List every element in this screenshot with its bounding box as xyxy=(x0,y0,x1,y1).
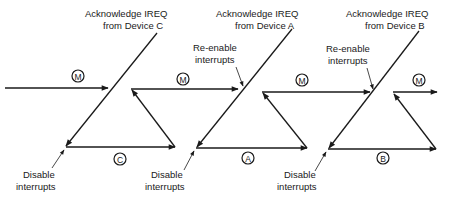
disable-label-a-line1: Disable xyxy=(151,169,183,180)
reenable-label-a-line1: Re-enable xyxy=(193,42,237,53)
acknowledge-label-b-line1: Acknowledge IREQ xyxy=(346,8,428,19)
svg-text:C: C xyxy=(117,155,123,165)
acknowledge-label-a-line1: Acknowledge IREQ xyxy=(216,8,298,19)
svg-text:B: B xyxy=(380,154,386,164)
marker-c: C xyxy=(114,153,126,165)
acknowledge-label-b-line2: from Device B xyxy=(365,20,425,31)
disable-label-b-line2: interrupts xyxy=(277,181,317,192)
marker-m-3: M xyxy=(296,74,308,86)
svg-text:M: M xyxy=(179,75,186,85)
disable-label-b-line1: Disable xyxy=(284,169,316,180)
reenable-pointer-b xyxy=(367,68,373,89)
svg-text:M: M xyxy=(298,76,305,86)
acknowledge-label-c-line1: Acknowledge IREQ xyxy=(85,8,167,19)
segment-device-b: M Acknowledge IREQ from Device B Re-enab… xyxy=(262,8,437,192)
reenable-label-a-line2: interrupts xyxy=(195,54,235,65)
marker-a: A xyxy=(242,152,254,164)
return-arrow-a xyxy=(263,93,307,148)
svg-text:M: M xyxy=(415,76,422,86)
marker-m-1: M xyxy=(72,70,84,82)
reenable-label-b-line2: interrupts xyxy=(328,55,368,66)
svg-text:M: M xyxy=(74,72,81,82)
disable-pointer-c xyxy=(52,150,64,168)
segment-device-a: M Acknowledge IREQ from Device A Re-enab… xyxy=(131,8,307,192)
marker-m-4: M xyxy=(413,74,425,86)
disable-pointer-b xyxy=(315,152,326,171)
disable-label-c-line2: interrupts xyxy=(16,181,56,192)
marker-b: B xyxy=(377,152,389,164)
acknowledge-label-a-line2: from Device A xyxy=(235,20,295,31)
segment-device-c: M Acknowledge IREQ from Device C C Disab… xyxy=(5,8,175,192)
reenable-label-b-line1: Re-enable xyxy=(326,43,370,54)
acknowledge-label-c-line2: from Device C xyxy=(103,20,163,31)
disable-label-c-line1: Disable xyxy=(23,169,55,180)
disable-pointer-a xyxy=(184,151,194,170)
svg-text:A: A xyxy=(245,154,251,164)
return-arrow-c xyxy=(132,90,175,147)
return-arrow-b xyxy=(394,94,436,149)
reenable-pointer-a xyxy=(236,67,243,86)
disable-label-a-line2: interrupts xyxy=(145,181,185,192)
marker-m-2: M xyxy=(177,73,189,85)
interrupt-sequence-diagram: M Acknowledge IREQ from Device C C Disab… xyxy=(0,0,453,201)
